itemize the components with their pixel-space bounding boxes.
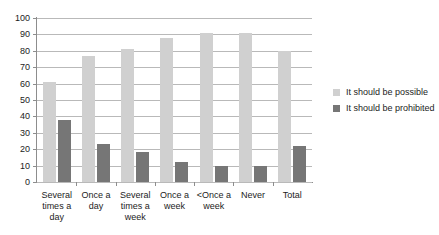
bar-chart: 0102030405060708090100 Severaltimes aday… bbox=[0, 0, 439, 235]
y-axis-tick-label: 30 bbox=[20, 128, 30, 137]
legend-label: It should be possible bbox=[346, 88, 428, 97]
x-axis-label-line: day bbox=[34, 212, 79, 223]
x-tick-mark bbox=[273, 182, 274, 186]
y-axis-tick-label: 70 bbox=[20, 63, 30, 72]
y-axis-tick-label: 60 bbox=[20, 79, 30, 88]
legend-item: It should be prohibited bbox=[333, 104, 435, 113]
bar-prohibited bbox=[215, 166, 228, 182]
x-axis-label-line: week bbox=[191, 201, 236, 212]
bar-prohibited bbox=[254, 166, 267, 182]
legend-swatch-icon bbox=[333, 89, 340, 96]
x-axis-category-label: Total bbox=[270, 190, 315, 201]
bar-prohibited bbox=[136, 152, 149, 182]
bar-prohibited bbox=[293, 146, 306, 182]
bar-prohibited bbox=[58, 120, 71, 182]
bar-group bbox=[116, 18, 155, 182]
y-axis-tick-label: 50 bbox=[20, 96, 30, 105]
legend-swatch-icon bbox=[333, 105, 340, 112]
x-tick-mark bbox=[233, 182, 234, 186]
bar-group bbox=[76, 18, 115, 182]
bar-possible bbox=[278, 51, 291, 182]
y-tick-mark-0 bbox=[33, 182, 37, 183]
y-axis-tick-label: 20 bbox=[20, 145, 30, 154]
y-axis-tick-label: 10 bbox=[20, 161, 30, 170]
x-axis-label-line: week bbox=[113, 212, 158, 223]
x-tick-mark bbox=[116, 182, 117, 186]
bar-possible bbox=[121, 49, 134, 182]
gridline-0 bbox=[37, 182, 312, 183]
bar-group bbox=[155, 18, 194, 182]
plot-area: 0102030405060708090100 bbox=[37, 18, 312, 182]
x-tick-mark bbox=[155, 182, 156, 186]
bar-group bbox=[37, 18, 76, 182]
y-axis-tick-label: 80 bbox=[20, 46, 30, 55]
bar-group bbox=[273, 18, 312, 182]
bar-possible bbox=[200, 33, 213, 182]
bar-prohibited bbox=[175, 162, 188, 182]
bar-possible bbox=[239, 33, 252, 182]
y-axis-tick-label: 90 bbox=[20, 30, 30, 39]
chart-legend: It should be possibleIt should be prohib… bbox=[333, 88, 435, 120]
legend-label: It should be prohibited bbox=[346, 104, 435, 113]
bar-prohibited bbox=[97, 144, 110, 182]
x-tick-mark bbox=[76, 182, 77, 186]
x-tick-mark bbox=[194, 182, 195, 186]
bar-possible bbox=[82, 56, 95, 182]
legend-item: It should be possible bbox=[333, 88, 435, 97]
bar-possible bbox=[43, 82, 56, 182]
bar-group bbox=[194, 18, 233, 182]
y-axis-tick-label: 40 bbox=[20, 112, 30, 121]
y-axis-tick-label: 100 bbox=[15, 14, 30, 23]
bar-possible bbox=[160, 38, 173, 182]
y-axis-tick-label: 0 bbox=[25, 178, 30, 187]
bar-group bbox=[233, 18, 272, 182]
x-axis-label-line: Total bbox=[270, 190, 315, 201]
